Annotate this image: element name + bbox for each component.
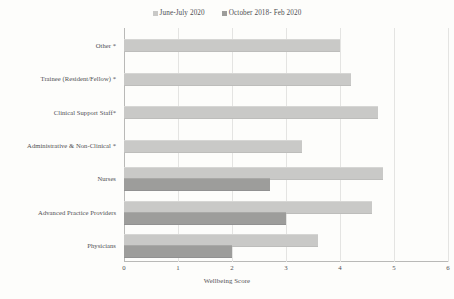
wellbeing-score-bar-chart: June-July 2020 October 2018- Feb 2020 Ot… [0,0,454,299]
category-label: Administrative & Non-Clinical * [27,142,116,149]
category-label: Trainee (Resident/Fellow) * [41,75,116,82]
category-label: Advanced Practice Providers [38,208,116,215]
legend-item-june-july-2020: June-July 2020 [153,9,205,17]
gridline [394,28,395,262]
x-tick-label: 3 [284,264,287,271]
gridline [340,28,341,262]
bar-0 [124,73,351,86]
legend-label: June-July 2020 [160,9,205,17]
value-axis-ticks: 0123456 [124,264,448,276]
x-tick-label: 2 [230,264,233,271]
category-label: Clinical Support Staff* [54,108,116,115]
x-tick-label: 1 [176,264,179,271]
category-axis-labels: Other *Trainee (Resident/Fellow) *Clinic… [0,28,120,262]
category-label: Physicians [87,242,116,249]
x-tick-label: 4 [338,264,341,271]
bar-0 [124,106,378,119]
bar-1 [124,245,232,258]
legend-item-october-2018-feb-2020: October 2018- Feb 2020 [222,9,302,17]
bar-0 [124,140,302,153]
category-label: Nurses [97,175,116,182]
legend-label: October 2018- Feb 2020 [229,9,302,17]
gridline [448,28,449,262]
x-axis-title: Wellbeing Score [0,277,454,284]
chart-legend: June-July 2020 October 2018- Feb 2020 [0,9,454,17]
x-tick-label: 5 [392,264,395,271]
legend-swatch-icon [222,11,227,16]
bar-0 [124,39,340,52]
bar-1 [124,178,270,191]
bar-1 [124,212,286,225]
category-label: Other * [96,41,116,48]
x-tick-label: 0 [122,264,125,271]
legend-swatch-icon [153,11,158,16]
x-tick-label: 6 [446,264,449,271]
plot-area [124,28,448,262]
